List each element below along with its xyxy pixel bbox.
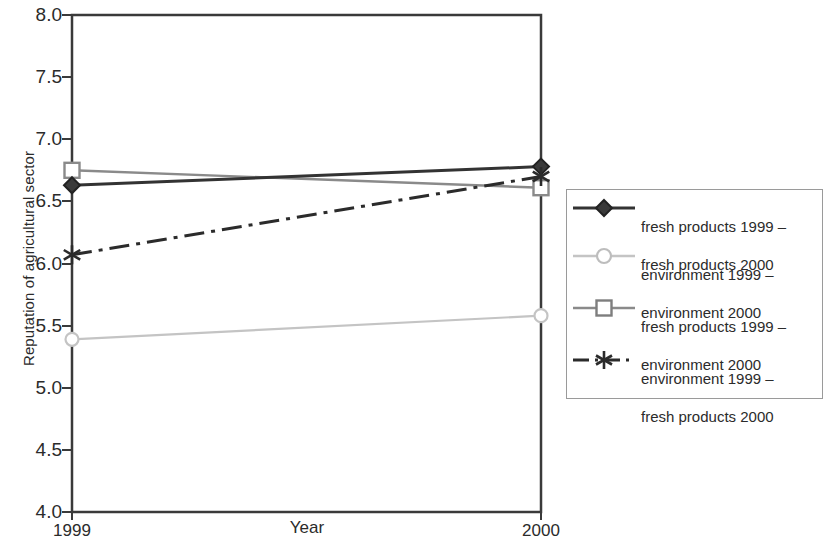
legend-label-line1: fresh products 1999 – (641, 318, 786, 335)
legend-label-line2: fresh products 2000 (641, 408, 774, 425)
legend-sample-fresh-environment (567, 294, 641, 340)
legend-label-line1: environment 1999 – (641, 266, 774, 283)
y-axis-title: Reputation of agricultural sector (20, 109, 37, 409)
square-marker (65, 163, 80, 178)
y-tick-4-5: 4.5 (18, 440, 62, 459)
plot-frame (72, 15, 541, 512)
y-tick-7-5: 7.5 (18, 67, 62, 86)
legend-label-line1: fresh products 1999 – (641, 218, 786, 235)
diamond-marker (596, 200, 612, 216)
y-axis-ticks (62, 15, 72, 512)
square-marker (597, 301, 612, 316)
y-tick-8-0: 8.0 (18, 5, 62, 24)
legend-item-fresh-environment[interactable]: fresh products 1999 – environment 2000 (567, 294, 824, 342)
legend-sample-environment-fresh (567, 346, 641, 392)
legend-item-environment-fresh[interactable]: environment 1999 – fresh products 2000 (567, 346, 824, 394)
circle-marker (535, 309, 548, 322)
legend-label-environment-fresh: environment 1999 – fresh products 2000 (641, 346, 774, 426)
legend-label-line1: environment 1999 – (641, 370, 774, 387)
legend-sample-fresh-fresh (567, 194, 641, 240)
x-tick-2000: 2000 (505, 521, 577, 541)
x-tick-1999: 1999 (36, 521, 108, 541)
y-tick-4-0: 4.0 (18, 502, 62, 521)
legend-item-environment-environment[interactable]: environment 1999 – environment 2000 (567, 242, 824, 290)
x-axis-title: Year (262, 518, 352, 538)
line-chart-figure: 8.0 7.5 7.0 6.5 6.0 5.5 5.0 4.5 4.0 Repu… (0, 0, 828, 547)
circle-marker (597, 249, 611, 263)
chart-legend: fresh products 1999 – fresh products 200… (566, 189, 823, 399)
circle-marker (66, 333, 79, 346)
legend-item-fresh-fresh[interactable]: fresh products 1999 – fresh products 200… (567, 194, 824, 242)
legend-sample-environment-environment (567, 242, 641, 288)
